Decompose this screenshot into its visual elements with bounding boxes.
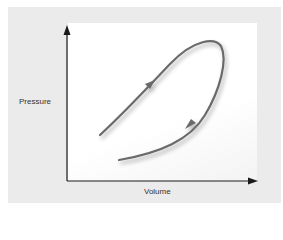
y-axis-arrow-icon	[64, 25, 71, 35]
y-axis-label: Pressure	[19, 97, 51, 106]
x-axis-label: Volume	[144, 187, 171, 196]
pv-curve	[100, 41, 224, 160]
axes	[64, 25, 259, 185]
x-axis-arrow-icon	[248, 178, 258, 185]
